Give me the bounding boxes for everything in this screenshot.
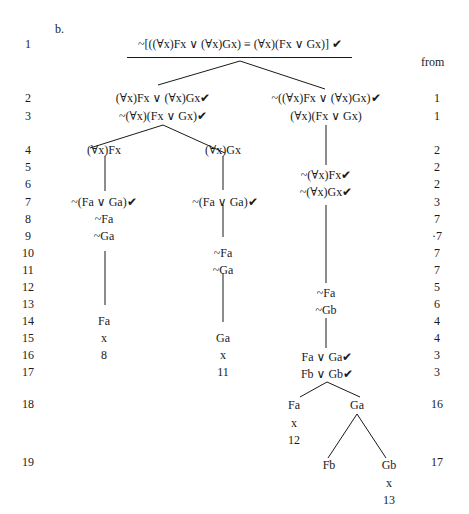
root-formula: ~[((∀x)Fx ∨ (∀x)Gx) ≡ (∀x)(Fx ∨ Gx)] ✔ [138, 37, 342, 51]
close-ref: 12 [288, 433, 300, 447]
node-left-line2: (∀x)Fx ∨ (∀x)Gx✔ [116, 91, 211, 105]
node-right-line17: Fb ∨ Gb✔ [301, 367, 353, 381]
node-right-line5: ~(∀x)Fx✔ [301, 168, 351, 182]
tree-branch-lines [0, 0, 469, 514]
node-right-line6: ~(∀x)Gx✔ [300, 185, 352, 199]
node-rrr-line19: Gb [382, 458, 397, 472]
line-number: 19 [0, 455, 56, 469]
root-underline [127, 57, 352, 58]
node-right-line3: (∀x)(Fx ∨ Gx) [290, 109, 361, 123]
node-rrl-line19: Fb [323, 458, 336, 472]
from-ref: 4 [420, 314, 454, 328]
line-number: 3 [0, 109, 56, 123]
line-number: 14 [0, 314, 56, 328]
node-right-line12: ~Fa [317, 286, 336, 300]
node-right-line2: ~((∀x)Fx ∨ (∀x)Gx)✔ [271, 91, 380, 105]
closed-mark: x [291, 416, 297, 430]
node-rr-line18: Ga [350, 398, 364, 412]
line-number: 2 [0, 91, 56, 105]
node-lr-line7: ~(Fa ∨ Ga)✔ [192, 195, 257, 209]
node-ll-line9: ~Ga [94, 229, 114, 243]
line-number: 13 [0, 297, 56, 311]
from-ref: 6 [420, 297, 454, 311]
from-ref: 4 [420, 331, 454, 345]
closed-mark: x [101, 331, 107, 345]
line-number: 17 [0, 365, 56, 379]
close-ref: 13 [383, 493, 395, 507]
from-ref: 1 [420, 91, 454, 105]
line-number: 5 [0, 160, 56, 174]
line-number: 11 [0, 263, 56, 277]
exercise-label: b. [55, 22, 64, 36]
close-ref: 11 [217, 365, 229, 379]
node-left-line3: ~(∀x)(Fx ∨ Gx)✔ [119, 109, 207, 123]
line-number: 16 [0, 348, 56, 362]
from-ref: 2 [420, 143, 454, 157]
line-number: 8 [0, 212, 56, 226]
closed-mark: x [386, 476, 392, 490]
from-ref: 3 [420, 348, 454, 362]
line-number: 18 [0, 397, 56, 411]
from-ref: 7 [420, 246, 454, 260]
from-ref: 7 [420, 212, 454, 226]
node-right-line16: Fa ∨ Ga✔ [302, 350, 353, 364]
from-ref: 1 [420, 109, 454, 123]
from-ref: 3 [420, 195, 454, 209]
node-right-line13: ~Gb [315, 303, 336, 317]
from-ref: 3 [420, 365, 454, 379]
closed-mark: x [220, 348, 226, 362]
line-number: 15 [0, 331, 56, 345]
from-ref: 2 [420, 160, 454, 174]
node-ll-line14: Fa [98, 314, 110, 328]
line-number: 9 [0, 229, 56, 243]
node-lr-line11: ~Ga [213, 263, 233, 277]
from-ref: 16 [420, 397, 454, 411]
line-number: 12 [0, 280, 56, 294]
line-number: 1 [0, 37, 56, 51]
from-ref: 2 [420, 177, 454, 191]
node-lr-line4: (∀x)Gx [205, 143, 241, 157]
from-ref: ·7 [420, 229, 454, 243]
from-ref: 7 [420, 263, 454, 277]
node-lr-line15: Ga [216, 331, 230, 345]
from-column-header: from [421, 55, 444, 69]
line-number: 10 [0, 246, 56, 260]
line-number: 4 [0, 143, 56, 157]
close-ref: 8 [101, 348, 107, 362]
node-ll-line8: ~Fa [95, 212, 114, 226]
line-number: 6 [0, 177, 56, 191]
node-lr-line10: ~Fa [214, 246, 233, 260]
node-ll-line7: ~(Fa ∨ Ga)✔ [71, 195, 136, 209]
node-ll-line4: (∀x)Fx [87, 143, 121, 157]
line-number: 7 [0, 195, 56, 209]
node-rl-line18: Fa [288, 398, 300, 412]
from-ref: 5 [420, 280, 454, 294]
from-ref: 17 [420, 455, 454, 469]
